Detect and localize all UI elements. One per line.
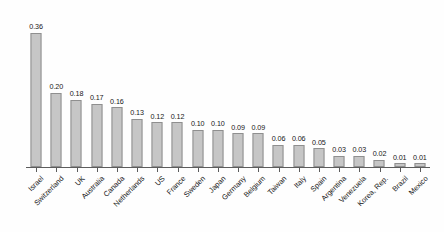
x-axis-tick bbox=[117, 168, 118, 172]
bar-group: 0.13 bbox=[127, 8, 147, 167]
bar-group: 0.10 bbox=[208, 8, 228, 167]
bar bbox=[293, 145, 304, 167]
x-axis-label-text: UK bbox=[73, 174, 87, 188]
bar-group: 0.10 bbox=[188, 8, 208, 167]
bar-group: 0.20 bbox=[46, 8, 66, 167]
bar-value-label: 0.06 bbox=[292, 135, 306, 143]
x-axis-tick bbox=[380, 168, 381, 172]
bar-chart: 0.360.200.180.170.160.130.120.120.100.10… bbox=[0, 0, 444, 232]
x-axis-tick bbox=[36, 168, 37, 172]
bar-value-label: 0.36 bbox=[29, 23, 43, 31]
bar bbox=[273, 145, 284, 167]
bar-group: 0.09 bbox=[248, 8, 268, 167]
bar bbox=[71, 100, 82, 167]
bar-value-label: 0.09 bbox=[251, 124, 265, 132]
bar bbox=[132, 119, 143, 167]
bar-value-label: 0.13 bbox=[130, 109, 144, 117]
bar-value-label: 0.03 bbox=[352, 146, 366, 154]
bar-value-label: 0.05 bbox=[312, 139, 326, 147]
bar-value-label: 0.16 bbox=[110, 98, 124, 106]
x-axis-label: Italy bbox=[292, 174, 308, 190]
bar-value-label: 0.01 bbox=[413, 154, 427, 162]
bar-group: 0.01 bbox=[410, 8, 430, 167]
bar-group: 0.36 bbox=[26, 8, 46, 167]
bar-value-label: 0.02 bbox=[373, 150, 387, 158]
bar bbox=[253, 133, 264, 167]
bar-group: 0.02 bbox=[369, 8, 389, 167]
bar-group: 0.06 bbox=[268, 8, 288, 167]
bar bbox=[111, 107, 122, 167]
bar-group: 0.01 bbox=[390, 8, 410, 167]
bar bbox=[91, 104, 102, 167]
bar-value-label: 0.10 bbox=[191, 120, 205, 128]
x-axis-tick bbox=[157, 168, 158, 172]
bar-group: 0.17 bbox=[87, 8, 107, 167]
bar-value-label: 0.03 bbox=[332, 146, 346, 154]
bar-group: 0.16 bbox=[107, 8, 127, 167]
bar bbox=[192, 130, 203, 167]
x-axis-tick bbox=[299, 168, 300, 172]
x-axis-tick bbox=[339, 168, 340, 172]
bar bbox=[31, 33, 42, 167]
x-axis-tick bbox=[400, 168, 401, 172]
x-axis-label: US bbox=[153, 174, 167, 188]
bar-value-label: 0.12 bbox=[150, 113, 164, 121]
bar-value-label: 0.17 bbox=[90, 94, 104, 102]
x-axis-label: Mexico bbox=[407, 174, 430, 197]
bar bbox=[313, 148, 324, 167]
bar bbox=[334, 156, 345, 167]
x-axis-label: UK bbox=[73, 174, 87, 188]
bar bbox=[233, 133, 244, 167]
x-axis-tick bbox=[97, 168, 98, 172]
bar-value-label: 0.09 bbox=[231, 124, 245, 132]
bar bbox=[51, 93, 62, 168]
plot-area: 0.360.200.180.170.160.130.120.120.100.10… bbox=[26, 8, 430, 167]
bar-value-label: 0.01 bbox=[393, 154, 407, 162]
x-axis-label-text: Mexico bbox=[407, 174, 430, 197]
bar-group: 0.18 bbox=[66, 8, 86, 167]
bar-group: 0.09 bbox=[228, 8, 248, 167]
bar bbox=[354, 156, 365, 167]
x-axis-tick bbox=[218, 168, 219, 172]
bar bbox=[212, 130, 223, 167]
x-axis-tick bbox=[359, 168, 360, 172]
bar bbox=[374, 160, 385, 167]
x-axis-tick bbox=[258, 168, 259, 172]
bar-value-label: 0.10 bbox=[211, 120, 225, 128]
x-axis-label-text: Italy bbox=[292, 174, 308, 190]
bar-group: 0.03 bbox=[329, 8, 349, 167]
bar-value-label: 0.18 bbox=[70, 90, 84, 98]
x-axis-tick bbox=[56, 168, 57, 172]
bar bbox=[172, 122, 183, 167]
bar-group: 0.06 bbox=[289, 8, 309, 167]
x-axis-label-text: Taiwan bbox=[265, 174, 288, 197]
bar-value-label: 0.20 bbox=[49, 83, 63, 91]
bar-group: 0.12 bbox=[167, 8, 187, 167]
x-axis-tick bbox=[238, 168, 239, 172]
x-axis-label: Taiwan bbox=[265, 174, 288, 197]
bar-value-label: 0.12 bbox=[171, 113, 185, 121]
bar-value-label: 0.06 bbox=[272, 135, 286, 143]
x-axis-tick bbox=[420, 168, 421, 172]
x-axis-tick bbox=[198, 168, 199, 172]
bar-group: 0.05 bbox=[309, 8, 329, 167]
x-axis-tick bbox=[319, 168, 320, 172]
bar bbox=[152, 122, 163, 167]
bar-group: 0.12 bbox=[147, 8, 167, 167]
x-axis-tick bbox=[178, 168, 179, 172]
x-axis-tick bbox=[137, 168, 138, 172]
x-axis-line bbox=[26, 167, 430, 168]
bar-group: 0.03 bbox=[349, 8, 369, 167]
x-axis-tick bbox=[279, 168, 280, 172]
x-axis-label-text: US bbox=[153, 174, 167, 188]
x-axis-tick bbox=[77, 168, 78, 172]
